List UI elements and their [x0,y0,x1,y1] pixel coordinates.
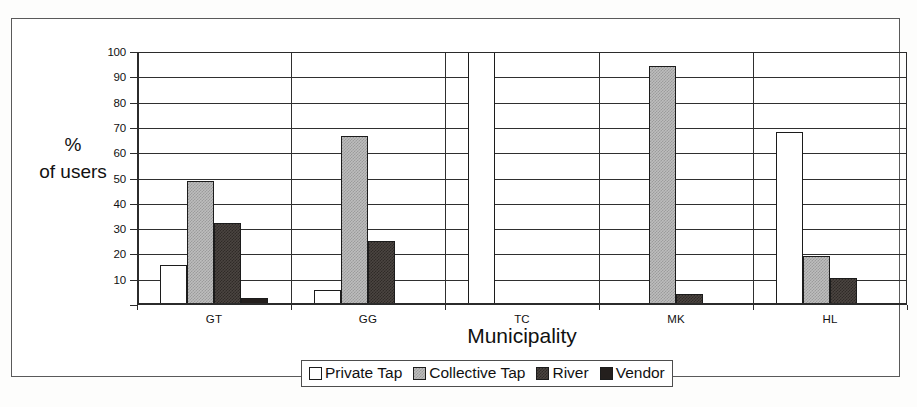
legend-item-collective: Collective Tap [413,364,525,382]
legend-swatch-collective-icon [413,367,426,380]
legend-swatch-private-icon [309,367,322,380]
y-tick-90 [130,77,137,78]
bar-MK-collective-tap [649,66,676,305]
category-divider-GG [291,52,292,305]
y-tick-40 [130,204,137,205]
x-tick-MK [599,305,600,310]
y-tick-70 [130,128,137,129]
bar-HL-private-tap [776,132,803,305]
x-tick-end [907,305,908,310]
y-tick-0 [130,305,137,306]
legend-item-private: Private Tap [309,364,402,382]
x-tick-TC [445,305,446,310]
y-tick-label-50: 50 [114,172,126,184]
y-tick-10 [130,280,137,281]
y-tick-100 [130,52,137,53]
gridline-70 [137,128,907,129]
bar-TC-private-tap [468,52,495,305]
legend-item-river: River [536,364,588,382]
y-tick-80 [130,103,137,104]
y-tick-label-100: 100 [107,46,126,58]
category-divider-HL [753,52,754,305]
legend-swatch-vendor-icon [600,367,613,380]
plot-area: 102030405060708090100 GTGGTCMKHL [137,52,907,305]
y-tick-60 [130,153,137,154]
legend-item-vendor: Vendor [600,364,665,382]
bar-GT-private-tap [160,265,187,305]
bar-MK-river [676,294,703,305]
gridline-80 [137,103,907,104]
y-axis-title: % of users [34,132,112,186]
gridline-100 [137,52,907,53]
x-tick-GT [137,305,138,310]
category-divider-MK [599,52,600,305]
bar-GG-river [368,241,395,306]
y-tick-label-90: 90 [114,71,126,83]
y-axis-title-line-2: of users [34,159,112,186]
y-tick-label-60: 60 [114,147,126,159]
bar-HL-river [830,278,857,305]
bar-GT-collective-tap [187,181,214,305]
legend-label-vendor: Vendor [616,364,665,382]
y-tick-label-40: 40 [114,198,126,210]
y-tick-label-80: 80 [114,96,126,108]
x-axis-title: Municipality [137,324,907,348]
bar-GG-private-tap [314,290,341,305]
gridline-90 [137,77,907,78]
bar-GT-river [214,223,241,305]
y-tick-label-10: 10 [114,273,126,285]
x-tick-GG [291,305,292,310]
y-tick-label-70: 70 [114,122,126,134]
bar-HL-collective-tap [803,256,830,305]
category-divider-TC [445,52,446,305]
x-tick-HL [753,305,754,310]
legend-label-collective: Collective Tap [429,364,525,382]
legend-label-private: Private Tap [325,364,402,382]
y-tick-50 [130,179,137,180]
y-axis-title-line-1: % [34,132,112,159]
legend-label-river: River [552,364,588,382]
figure-border: % of users 102030405060708090100 GTGGTCM… [11,18,900,377]
legend-swatch-river-icon [536,367,549,380]
y-tick-label-20: 20 [114,248,126,260]
bar-GG-collective-tap [341,136,368,305]
y-tick-30 [130,229,137,230]
bar-GT-vendor [241,298,268,305]
chart-legend: Private TapCollective TapRiverVendor [301,360,673,387]
y-tick-label-30: 30 [114,223,126,235]
y-tick-20 [130,254,137,255]
